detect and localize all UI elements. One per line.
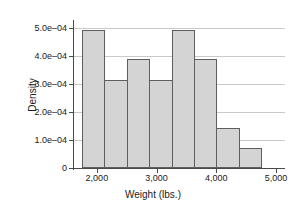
x-tick-label: 3,000	[145, 173, 168, 183]
y-tick-label: 4.0e–04	[34, 51, 67, 61]
histogram-bar	[216, 128, 239, 168]
y-tick-label: 0	[62, 163, 67, 173]
y-axis-line	[73, 20, 74, 170]
y-tick-label: 2.0e–04	[34, 107, 67, 117]
y-tick-label: 1.0e–04	[34, 135, 67, 145]
histogram-bar	[194, 59, 217, 168]
y-tick-mark	[69, 168, 73, 169]
y-axis-title: Density	[27, 35, 38, 155]
y-tick-mark	[69, 112, 73, 113]
x-tick-label: 2,000	[86, 173, 109, 183]
x-axis-line	[73, 168, 285, 169]
gridline-y	[73, 28, 285, 29]
histogram-bar	[82, 30, 105, 168]
plot-area	[73, 22, 285, 168]
y-tick-label: 5.0e–04	[34, 23, 67, 33]
y-tick-mark	[69, 28, 73, 29]
histogram-bar	[149, 80, 172, 168]
histogram-bar	[104, 80, 127, 168]
x-tick-label: 5,000	[265, 173, 288, 183]
y-tick-mark	[69, 56, 73, 57]
histogram-bar	[239, 148, 262, 168]
y-axis-title-wrap: Density	[18, 0, 38, 190]
histogram-figure: 01.0e–042.0e–043.0e–044.0e–045.0e–04 Den…	[0, 0, 306, 211]
x-axis-title: Weight (lbs.)	[0, 189, 306, 200]
y-tick-label: 3.0e–04	[34, 79, 67, 89]
histogram-bar	[127, 59, 150, 168]
y-tick-mark	[69, 140, 73, 141]
y-tick-mark	[69, 84, 73, 85]
histogram-bar	[172, 30, 195, 168]
x-tick-label: 4,000	[205, 173, 228, 183]
